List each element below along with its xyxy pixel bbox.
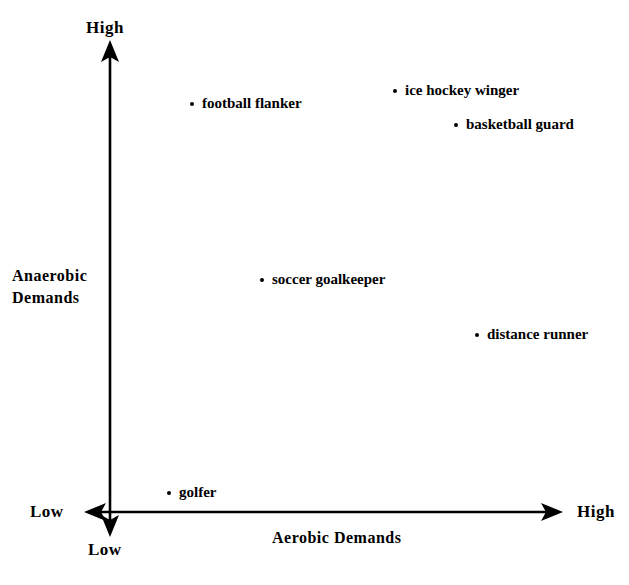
data-point-marker-icon [393,89,397,93]
data-point-label: golfer [179,485,216,500]
y-axis-title-line-1: Anaerobic [12,265,104,287]
y-axis-high-label: High [86,18,124,38]
x-axis-left-arrowhead [84,503,106,521]
x-axis-low-label: Low [30,502,64,522]
data-point-marker-icon [475,333,479,337]
data-point-label: soccer goalkeeper [272,272,385,287]
x-axis-right-arrowhead [541,503,563,521]
data-point: distance runner [475,327,588,342]
data-point: basketball guard [454,117,574,132]
data-point: soccer goalkeeper [260,272,385,287]
y-axis-title: Anaerobic Demands [12,265,104,308]
data-point: football flanker [190,96,302,111]
x-axis-title: Aerobic Demands [272,527,401,549]
data-point-marker-icon [190,102,194,106]
data-point-marker-icon [454,123,458,127]
y-axis-up-arrowhead [101,40,119,62]
x-axis-high-label: High [577,502,615,522]
y-axis-down-arrowhead [101,515,119,537]
data-point: golfer [167,485,216,500]
data-point-label: football flanker [202,96,302,111]
data-point: ice hockey winger [393,83,519,98]
data-point-marker-icon [260,278,264,282]
data-point-label: distance runner [487,327,588,342]
data-point-marker-icon [167,491,171,495]
y-axis-low-label: Low [88,540,122,560]
data-point-label: ice hockey winger [405,83,519,98]
data-point-label: basketball guard [466,117,574,132]
scatter-plot-figure: High Low Low High Anaerobic Demands Aero… [0,0,629,585]
y-axis-title-line-2: Demands [12,287,104,309]
